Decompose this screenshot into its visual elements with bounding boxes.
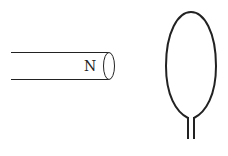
diagram-canvas: N: [0, 0, 228, 156]
bar-magnet: [11, 53, 115, 80]
magnet-end-face: [104, 53, 115, 80]
wire-loop: [166, 12, 216, 139]
north-pole-label: N: [84, 58, 96, 74]
loop-coil: [166, 12, 216, 118]
